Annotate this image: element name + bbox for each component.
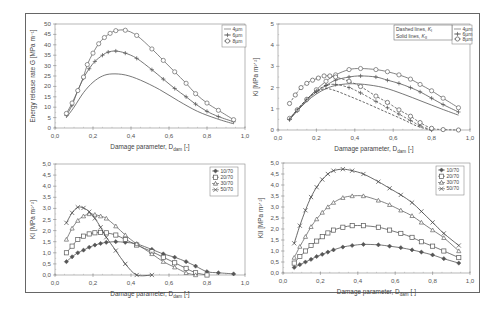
marker-circle-icon xyxy=(455,37,459,41)
marker-diamond-icon xyxy=(232,272,236,276)
marker-square-icon xyxy=(320,235,324,239)
marker-plus-icon xyxy=(408,118,412,122)
marker-circle-icon xyxy=(205,101,209,105)
y-tick-label: 3 xyxy=(271,62,275,69)
y-tick-label: 2,5 xyxy=(42,216,51,223)
marker-cross-icon xyxy=(387,186,391,190)
y-axis-label: KII [MPa m¹ᐟ²] xyxy=(257,197,265,238)
marker-diamond-icon xyxy=(76,251,80,255)
x-tick-label: 1,0 xyxy=(466,277,475,284)
marker-plus-icon xyxy=(385,106,389,110)
marker-triangle-icon xyxy=(410,214,414,218)
marker-circle-icon xyxy=(232,118,236,122)
marker-circle-icon xyxy=(347,79,351,83)
marker-diamond-icon xyxy=(387,244,391,248)
y-tick-label: 35 xyxy=(44,51,51,58)
y-tick-label: 4 xyxy=(271,41,275,48)
legend: 10/7020/7030/7050/70 xyxy=(436,166,464,195)
y-tick-label: 15 xyxy=(44,93,51,100)
marker-cross-icon xyxy=(410,201,414,205)
marker-diamond-icon xyxy=(350,243,354,247)
y-tick-label: 5 xyxy=(48,114,52,121)
y-axis-label: KI [MPa m¹ᐟ²] xyxy=(29,200,37,239)
marker-circle-icon xyxy=(322,74,326,78)
y-tick-label: 2,0 xyxy=(270,225,279,232)
series-4-m xyxy=(66,74,233,124)
marker-circle-icon xyxy=(194,92,198,96)
marker-plus-icon xyxy=(135,56,139,60)
x-tick-label: 0,0 xyxy=(51,279,60,286)
x-tick-label: 1,0 xyxy=(241,132,250,139)
x-tick-label: 0,8 xyxy=(427,134,436,141)
y-tick-label: 4,0 xyxy=(42,182,51,189)
series-line xyxy=(290,76,459,130)
series-line xyxy=(66,74,233,124)
y-tick-label: 0,0 xyxy=(270,269,279,276)
x-tick-label: 0,4 xyxy=(127,279,136,286)
marker-square-icon xyxy=(341,225,345,229)
marker-square-icon xyxy=(81,234,85,238)
legend-label: 10/70 xyxy=(221,168,234,174)
marker-cross-icon xyxy=(376,180,380,184)
marker-diamond-icon xyxy=(303,260,307,264)
marker-cross-icon xyxy=(399,193,403,197)
x-tick-label: 0,6 xyxy=(165,279,174,286)
marker-cross-icon xyxy=(81,206,85,210)
marker-diamond-icon xyxy=(81,248,85,252)
marker-square-icon xyxy=(303,249,307,253)
marker-circle-icon xyxy=(430,126,434,130)
x-axis-label: Damage parameter, Ddam [-] xyxy=(110,290,189,299)
marker-cross-icon xyxy=(114,248,118,252)
marker-circle-icon xyxy=(102,35,106,39)
marker-diamond-icon xyxy=(184,260,188,264)
marker-triangle-icon xyxy=(161,260,165,264)
marker-square-icon xyxy=(123,237,127,241)
x-tick-label: 0,0 xyxy=(51,132,60,139)
marker-triangle-icon xyxy=(303,235,307,239)
y-tick-label: 0 xyxy=(271,126,275,133)
marker-plus-icon xyxy=(418,90,422,94)
marker-square-icon xyxy=(457,256,461,260)
marker-cross-icon xyxy=(292,241,296,245)
marker-square-icon xyxy=(99,230,103,234)
y-tick-label: 4,0 xyxy=(270,181,279,188)
marker-square-icon xyxy=(114,233,118,237)
marker-circle-icon xyxy=(184,81,188,85)
marker-square-icon xyxy=(173,261,177,265)
marker-circle-icon xyxy=(441,127,445,131)
marker-circle-icon xyxy=(430,89,434,93)
x-tick-label: 0,6 xyxy=(391,277,400,284)
marker-diamond-icon xyxy=(292,265,296,269)
legend-label: 8µm xyxy=(233,38,243,44)
series-line xyxy=(66,30,233,120)
x-axis-label: Damage parameter, Ddam [-] xyxy=(337,288,416,297)
y-tick-label: 5 xyxy=(271,20,275,27)
series-20-70 xyxy=(64,230,209,277)
x-tick-label: 0,0 xyxy=(274,134,283,141)
x-tick-label: 0,4 xyxy=(353,277,362,284)
marker-plus-icon xyxy=(106,50,110,54)
x-tick-label: 0,8 xyxy=(428,277,437,284)
marker-plus-icon xyxy=(347,86,351,90)
series-10-70 xyxy=(292,242,461,269)
marker-diamond-icon xyxy=(431,253,435,257)
series-line xyxy=(290,76,459,119)
chart-bottom-left: 0,00,51,01,52,02,53,03,54,04,55,00,00,20… xyxy=(29,160,250,299)
marker-plus-icon xyxy=(114,49,118,53)
marker-plus-icon xyxy=(408,86,412,90)
legend-label: 30/70 xyxy=(221,180,234,186)
marker-cross-icon xyxy=(457,243,461,247)
x-tick-label: 0,2 xyxy=(312,134,321,141)
marker-circle-icon xyxy=(76,88,80,92)
chart-top-left: 051015202530354045500,00,20,40,60,81,0Da… xyxy=(29,20,250,152)
marker-cross-icon xyxy=(431,220,435,224)
y-tick-label: 2 xyxy=(271,84,275,91)
marker-plus-icon xyxy=(374,75,378,79)
marker-cross-icon xyxy=(361,172,365,176)
marker-plus-icon xyxy=(385,78,389,82)
marker-diamond-icon xyxy=(216,271,220,275)
marker-cross-icon xyxy=(298,224,302,228)
marker-circle-icon xyxy=(456,128,460,132)
marker-diamond-icon xyxy=(320,252,324,256)
marker-circle-icon xyxy=(316,76,320,80)
